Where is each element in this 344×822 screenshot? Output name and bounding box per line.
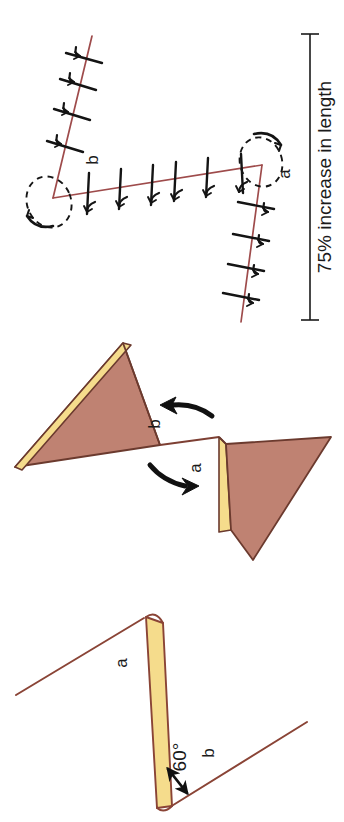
label-b-extension: b xyxy=(83,155,102,164)
label-a-initial: a xyxy=(112,658,131,668)
label-b-initial: b xyxy=(199,748,218,757)
deformation-figure: b a 75% increase in length xyxy=(0,0,344,822)
label-a-rotation: a xyxy=(186,463,205,473)
measure-bar-label: 75% increase in length xyxy=(314,81,335,273)
label-b-rotation: b xyxy=(145,419,164,428)
figure-canvas: b a 75% increase in length xyxy=(0,0,344,822)
label-a-extension: a xyxy=(275,169,294,179)
label-angle-initial: 60° xyxy=(169,743,190,772)
